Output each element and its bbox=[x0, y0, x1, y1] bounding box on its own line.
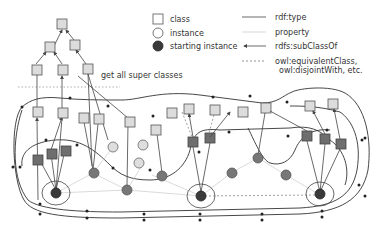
class-node bbox=[61, 146, 71, 156]
legend-instance-label: instance bbox=[170, 29, 204, 38]
class-node bbox=[45, 42, 55, 52]
class-node bbox=[305, 101, 315, 111]
class-node bbox=[57, 19, 67, 29]
class-node bbox=[184, 104, 194, 114]
legend-starting-instance-label: starting instance bbox=[170, 42, 238, 51]
legend-edges: rdf:type property rdfs:subClassOf owl:eq… bbox=[242, 13, 363, 75]
ontology-diagram: get all super classes class instance sta… bbox=[0, 0, 388, 233]
instance-node bbox=[157, 171, 167, 181]
instance-node bbox=[138, 140, 148, 150]
legend-nodes: class instance starting instance bbox=[153, 14, 238, 51]
class-node bbox=[58, 108, 68, 118]
legend-equivalent-label-2: owl:disjointWith, etc. bbox=[279, 66, 363, 75]
legend-equivalent-label-1: owl:equivalentClass, bbox=[275, 57, 357, 66]
class-node bbox=[238, 107, 248, 117]
instance-node bbox=[253, 153, 263, 163]
class-node bbox=[70, 40, 80, 50]
class-node bbox=[151, 125, 161, 135]
class-node bbox=[79, 113, 89, 123]
class-node bbox=[47, 149, 57, 159]
super-classes-annotation: get all super classes bbox=[101, 71, 183, 80]
class-nodes bbox=[33, 99, 346, 165]
instance-node bbox=[89, 168, 99, 178]
legend-class-label: class bbox=[170, 15, 190, 24]
class-node bbox=[336, 139, 346, 149]
instance-node bbox=[108, 142, 118, 152]
class-node bbox=[58, 65, 68, 75]
class-node bbox=[261, 103, 271, 113]
class-node bbox=[33, 155, 43, 165]
class-node bbox=[210, 105, 220, 115]
type-edges-right bbox=[182, 109, 340, 192]
instance-node bbox=[134, 158, 144, 168]
class-node bbox=[188, 137, 198, 147]
class-node bbox=[167, 108, 177, 118]
class-node bbox=[328, 99, 338, 109]
legend-rdf-type-label: rdf:type bbox=[275, 13, 306, 22]
instance-node bbox=[281, 170, 291, 180]
legend-property-label: property bbox=[275, 28, 310, 37]
legend-subclassof-label: rdfs:subClassOf bbox=[275, 42, 338, 51]
starting-instance bbox=[315, 189, 325, 199]
legend-class-icon bbox=[153, 14, 163, 24]
class-node bbox=[33, 107, 43, 117]
class-node bbox=[302, 131, 312, 141]
legend-starting-instance-icon bbox=[153, 41, 163, 51]
instance-node bbox=[227, 168, 237, 178]
instance-node bbox=[122, 185, 132, 195]
legend-instance-icon bbox=[153, 28, 163, 38]
class-node bbox=[32, 65, 42, 75]
class-node bbox=[83, 64, 93, 74]
class-node bbox=[125, 117, 135, 127]
starting-instance bbox=[196, 191, 206, 201]
class-hierarchy bbox=[32, 19, 93, 75]
class-node bbox=[320, 134, 330, 144]
starting-instance bbox=[51, 188, 61, 198]
starting-instances bbox=[42, 181, 334, 208]
class-node bbox=[94, 114, 104, 124]
class-node bbox=[205, 133, 215, 143]
